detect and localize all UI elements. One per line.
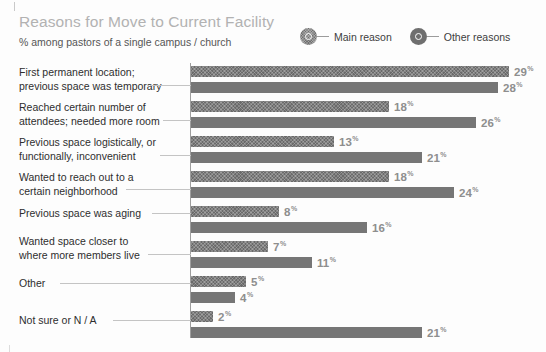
percent-sign: % [258, 275, 264, 282]
percent-sign: % [527, 65, 533, 72]
percent-sign: % [247, 291, 253, 298]
category-label-line: attendees; needed more room [19, 115, 179, 129]
bar-other-reasons [191, 222, 367, 233]
label-connector-line [60, 283, 191, 284]
bar-value-number: 7 [273, 241, 279, 253]
bar-main-reason [191, 101, 389, 112]
percent-sign: % [352, 135, 358, 142]
percent-sign: % [472, 186, 478, 193]
bar-value-label: 13% [339, 135, 359, 148]
category-label-line: Wanted space closer to [19, 235, 179, 249]
label-connector-line [152, 213, 191, 214]
chart-canvas: Reasons for Move to Current Facility % a… [0, 0, 546, 352]
category-label-line: Wanted to reach out to a [19, 171, 179, 185]
legend-label-other-reasons: Other reasons [444, 31, 511, 43]
percent-sign: % [407, 170, 413, 177]
bar-other-reasons [191, 82, 498, 93]
bar-value-number: 16 [372, 222, 385, 234]
percent-sign: % [516, 81, 522, 88]
bar-value-number: 24 [459, 187, 472, 199]
bar-value-label: 18% [394, 170, 414, 183]
bar-main-reason [191, 276, 246, 287]
bar-value-label: 4% [240, 291, 253, 304]
bar-other-reasons [191, 327, 422, 338]
bar-value-number: 21 [427, 327, 440, 339]
bar-value-label: 16% [372, 221, 392, 234]
category-label-line: Previous space logistically, or [19, 136, 179, 150]
category-label-line: where more members live [19, 249, 179, 263]
category-label-line: functionally, inconvenient [19, 150, 179, 164]
bar-value-label: 5% [251, 275, 264, 288]
bar-value-label: 18% [394, 100, 414, 113]
bar-value-label: 26% [481, 116, 501, 129]
category-label: Wanted to reach out to acertain neighbor… [19, 171, 179, 198]
bar-main-reason [191, 206, 279, 217]
bar-value-label: 8% [284, 205, 297, 218]
percent-sign: % [407, 100, 413, 107]
label-connector-line [126, 189, 191, 190]
label-connector-line [148, 254, 191, 255]
label-connector-line [163, 120, 191, 121]
bar-main-reason [191, 136, 334, 147]
chart-title: Reasons for Move to Current Facility [19, 13, 274, 31]
chart-legend: Main reason Other reasons [300, 22, 535, 51]
bar-main-reason [191, 66, 509, 77]
bar-value-label: 2% [218, 310, 231, 323]
bar-value-label: 24% [459, 186, 479, 199]
bar-other-reasons [191, 117, 476, 128]
label-connector-line [160, 155, 191, 156]
category-label: Reached certain number ofattendees; need… [19, 101, 179, 128]
bar-value-number: 18 [394, 171, 407, 183]
bar-other-reasons [191, 152, 422, 163]
percent-sign: % [225, 310, 231, 317]
percent-sign: % [330, 256, 336, 263]
legend-label-main-reason: Main reason [334, 31, 392, 43]
bar-value-number: 21 [427, 152, 440, 164]
percent-sign: % [280, 240, 286, 247]
category-label-line: Reached certain number of [19, 101, 179, 115]
bar-value-number: 29 [514, 66, 527, 78]
crop-mark-top [14, 2, 15, 11]
bar-other-reasons [191, 257, 312, 268]
bar-value-label: 21% [427, 151, 447, 164]
label-connector-line [150, 85, 191, 86]
bar-value-number: 11 [317, 257, 329, 269]
percent-sign: % [385, 221, 391, 228]
legend-item-main-reason: Main reason [300, 28, 392, 45]
bar-value-number: 26 [481, 117, 494, 129]
chart-subtitle: % among pastors of a single campus / chu… [19, 36, 231, 48]
percent-sign: % [440, 151, 446, 158]
category-label-line: First permanent location; [19, 66, 179, 80]
bar-value-number: 2 [218, 311, 224, 323]
bar-other-reasons [191, 187, 454, 198]
bar-other-reasons [191, 292, 235, 303]
plot-area: First permanent location;previous space … [0, 58, 546, 348]
bar-value-number: 5 [251, 276, 257, 288]
bar-value-label: 21% [427, 326, 447, 339]
bar-value-number: 4 [240, 292, 246, 304]
bar-main-reason [191, 241, 268, 252]
bar-value-number: 13 [339, 136, 352, 148]
percent-sign: % [440, 326, 446, 333]
bar-value-label: 29% [514, 65, 534, 78]
bar-value-number: 8 [284, 206, 290, 218]
legend-connector-line [427, 36, 439, 37]
percent-sign: % [291, 205, 297, 212]
bar-main-reason [191, 171, 389, 182]
solid-circle-marker-icon [410, 28, 427, 45]
percent-sign: % [494, 116, 500, 123]
category-label: Previous space logistically, orfunctiona… [19, 136, 179, 163]
label-connector-line [113, 320, 191, 321]
bar-main-reason [191, 311, 213, 322]
bar-value-number: 28 [503, 82, 516, 94]
bar-value-label: 7% [273, 240, 286, 253]
bar-value-label: 11% [317, 256, 336, 269]
category-label: Wanted space closer towhere more members… [19, 235, 179, 262]
hatched-circle-marker-icon [300, 28, 317, 45]
bar-value-number: 18 [394, 101, 407, 113]
category-label-line: certain neighborhood [19, 185, 179, 199]
legend-connector-line [317, 36, 329, 37]
category-label: First permanent location;previous space … [19, 66, 179, 93]
legend-item-other-reasons: Other reasons [410, 28, 511, 45]
bar-value-label: 28% [503, 81, 523, 94]
